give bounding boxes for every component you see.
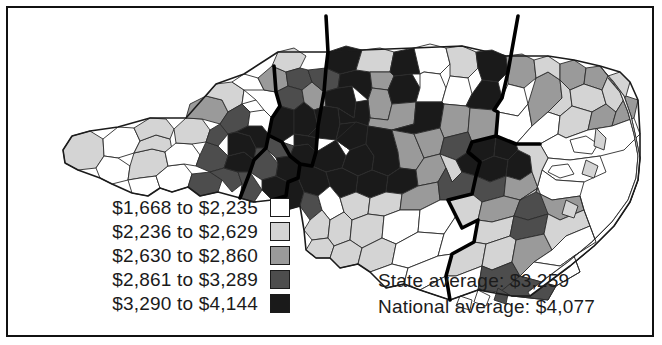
national-average-label: National average: $4,077 <box>378 294 595 320</box>
legend-swatch-class-1 <box>270 198 290 217</box>
legend-item: $2,630 to $2,860 <box>98 244 290 267</box>
legend-swatch-class-3 <box>270 246 290 265</box>
legend-label: $2,236 to $2,629 <box>98 221 258 243</box>
legend-swatch-class-2 <box>270 222 290 241</box>
legend-label: $2,861 to $3,289 <box>98 269 258 291</box>
figure-root: $1,668 to $2,235 $2,236 to $2,629 $2,630… <box>0 0 662 345</box>
average-annotations: State average: $3,259 National average: … <box>378 268 595 320</box>
legend-item: $1,668 to $2,235 <box>98 196 290 219</box>
legend-item: $2,236 to $2,629 <box>98 220 290 243</box>
legend: $1,668 to $2,235 $2,236 to $2,629 $2,630… <box>98 196 290 316</box>
legend-item: $2,861 to $3,289 <box>98 268 290 291</box>
legend-item: $3,290 to $4,144 <box>98 292 290 315</box>
legend-label: $1,668 to $2,235 <box>98 197 258 219</box>
legend-label: $3,290 to $4,144 <box>98 293 258 315</box>
legend-swatch-class-4 <box>270 270 290 289</box>
legend-label: $2,630 to $2,860 <box>98 245 258 267</box>
state-average-label: State average: $3,259 <box>378 268 595 294</box>
legend-swatch-class-5 <box>270 294 290 313</box>
